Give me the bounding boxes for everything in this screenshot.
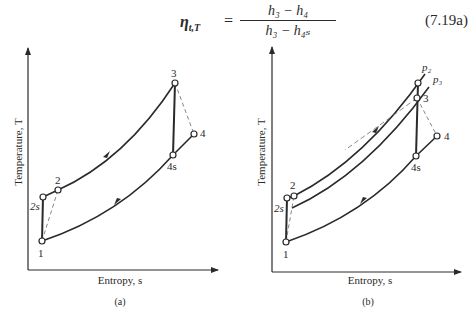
isentropic-compression-a xyxy=(42,197,43,241)
isobar-p3-b xyxy=(292,87,429,208)
label-3-b: 3 xyxy=(423,92,429,104)
label-1-b: 1 xyxy=(283,248,289,260)
label-1-a: 1 xyxy=(38,247,44,259)
state-point-p2-top-b xyxy=(415,80,421,86)
state-point-4s-b xyxy=(413,153,419,159)
label-4-b: 4 xyxy=(444,130,450,142)
state-point-2-b xyxy=(291,193,297,199)
y-axis-label-a: Temperature, T xyxy=(12,118,24,186)
state-point-3-a xyxy=(172,80,178,86)
x-axis-label-a: Entropy, s xyxy=(98,274,143,286)
state-point-2s-b xyxy=(284,195,290,201)
state-point-1-b xyxy=(283,239,289,245)
caption-a: (a) xyxy=(114,296,125,308)
label-2-b: 2 xyxy=(290,179,296,191)
isobar-high-a xyxy=(43,83,175,197)
x-axis-label-b: Entropy, s xyxy=(348,274,393,286)
panel-b: 1 2s 2 3 4 4s p₂ p₃ Entropy, s Temperatu… xyxy=(255,47,461,308)
ts-diagrams: 1 2s 2 3 4 4s Entropy, s Temperature, T … xyxy=(0,0,476,317)
label-4-a: 4 xyxy=(200,127,206,139)
flow-arrow-up-a xyxy=(103,151,110,158)
state-point-3-b xyxy=(414,95,420,101)
state-point-4-b xyxy=(434,133,440,139)
isentropic-expansion-a xyxy=(173,83,175,155)
label-2s-b: 2s xyxy=(274,202,284,214)
y-axis-label-b: Temperature, T xyxy=(255,118,267,186)
state-point-4s-a xyxy=(170,152,176,158)
caption-b: (b) xyxy=(362,296,374,308)
state-point-2-a xyxy=(55,187,61,193)
state-point-1-a xyxy=(39,238,45,244)
label-4s-a: 4s xyxy=(167,160,177,172)
label-p2-b: p₂ xyxy=(421,61,432,73)
label-2s-a: 2s xyxy=(30,200,40,212)
isentropic-compression-b xyxy=(286,198,287,242)
label-3-a: 3 xyxy=(171,67,177,79)
label-2-a: 2 xyxy=(55,174,61,186)
panel-a: 1 2s 2 3 4 4s Entropy, s Temperature, T … xyxy=(12,48,218,308)
actual-expansion-a xyxy=(175,83,194,134)
label-4s-b: 4s xyxy=(411,161,421,173)
isobar-p2-b xyxy=(287,74,425,198)
label-p3-b: p₃ xyxy=(432,73,443,85)
isentropic-expansion-b xyxy=(416,83,418,156)
pressure-drop-path-b xyxy=(345,98,417,150)
state-point-4-a xyxy=(191,131,197,137)
state-point-2s-a xyxy=(40,194,46,200)
isobar-low-b xyxy=(286,136,437,242)
